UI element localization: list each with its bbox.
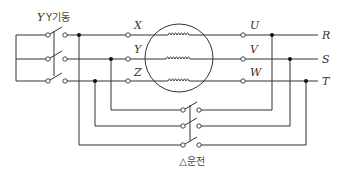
supply-t-label: T xyxy=(322,75,331,88)
motor-terminals-uvw: U V W xyxy=(241,19,263,83)
winding-1 xyxy=(157,33,201,35)
terminal-v-label: V xyxy=(250,43,259,56)
y-start-label: Y기동 xyxy=(45,12,70,23)
terminal-u-label: U xyxy=(250,19,260,32)
y-switch xyxy=(46,27,67,83)
delta-run-label: △운전 xyxy=(179,156,205,167)
winding-2 xyxy=(150,57,208,59)
motor-terminals-xyz: X Y Z xyxy=(126,19,143,83)
delta-switch xyxy=(181,102,201,147)
terminal-y-label: Y xyxy=(134,43,143,56)
supply-lines: R S T xyxy=(321,29,331,88)
winding-3 xyxy=(157,79,201,81)
supply-s-label: S xyxy=(322,53,330,66)
supply-r-label: R xyxy=(321,29,330,42)
terminal-z-label: Z xyxy=(133,66,142,79)
y-delta-starting-diagram: Y Y기동 X Y Z xyxy=(0,0,344,176)
terminal-x-label: X xyxy=(133,19,143,32)
terminal-w-label: W xyxy=(250,66,263,79)
y-switch-shorting-bus xyxy=(16,35,46,81)
motor xyxy=(145,24,213,92)
motor-housing xyxy=(145,24,213,92)
y-start-label-prefix: Y xyxy=(37,11,46,24)
